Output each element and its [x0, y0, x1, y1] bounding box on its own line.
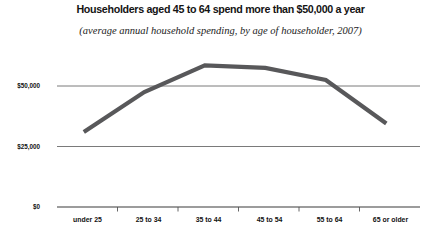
line-chart-plot: [0, 0, 441, 246]
x-tick-label-55-to-64: 55 to 64: [301, 215, 357, 224]
x-tick-label-45-to-54: 45 to 54: [241, 215, 297, 224]
y-tick-label-50000: $50,000: [4, 82, 40, 89]
x-tick-label-25-to-34: 25 to 34: [120, 215, 176, 224]
y-tick-label-0: $0: [4, 203, 40, 210]
data-series-line: [84, 65, 387, 132]
chart-page: Householders aged 45 to 64 spend more th…: [0, 0, 441, 246]
x-tick-label-under-25: under 25: [59, 215, 115, 224]
x-tick-label-65-or-older: 65 or older: [362, 215, 418, 224]
x-tick-label-35-to-44: 35 to 44: [180, 215, 236, 224]
y-tick-label-25000: $25,000: [4, 143, 40, 150]
x-axis: [57, 207, 420, 212]
